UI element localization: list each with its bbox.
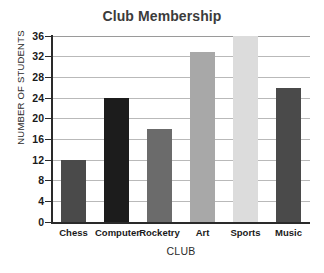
y-tick-label: 8 [4,175,44,186]
y-tick-label: 28 [4,72,44,83]
x-axis-label: CLUB [52,245,310,257]
bar [190,52,214,223]
y-axis-line [51,35,53,224]
x-tick-label: Sports [224,227,267,238]
y-tick-mark [45,201,52,202]
y-tick-label: 32 [4,51,44,62]
plot-area [52,36,310,222]
y-tick-label: 20 [4,113,44,124]
bar [276,88,300,222]
gridline [52,160,310,161]
y-tick-mark [45,118,52,119]
y-tick-mark [45,56,52,57]
y-tick-mark [45,222,52,223]
y-axis-tick-labels: 04812162024283236 [0,0,44,273]
bar-chart: Club Membership NUMBER OF STUDENTS 04812… [0,0,324,273]
x-tick-label: Rocketry [138,227,181,238]
x-tick-label: Computer [95,227,138,238]
y-tick-mark [45,160,52,161]
gridline [52,118,310,119]
gridline [52,180,310,181]
y-tick-label: 16 [4,134,44,145]
y-tick-mark [45,180,52,181]
y-tick-mark [45,139,52,140]
x-axis-tick-labels: ChessComputerRocketryArtSportsMusic [52,227,310,243]
y-tick-mark [45,36,52,37]
gridline [52,98,310,99]
y-tick-mark [45,98,52,99]
gridline [52,201,310,202]
gridline [52,139,310,140]
bar [233,36,257,222]
bar [104,98,128,222]
y-tick-label: 12 [4,155,44,166]
y-tick-label: 4 [4,196,44,207]
bar [147,129,171,222]
y-tick-mark [45,77,52,78]
bar [61,160,85,222]
y-tick-label: 24 [4,93,44,104]
x-tick-label: Art [181,227,224,238]
gridline [52,36,310,37]
chart-title: Club Membership [0,8,324,24]
x-axis-line [51,222,310,224]
gridline [52,77,310,78]
x-tick-label: Music [267,227,310,238]
y-tick-label: 36 [4,31,44,42]
y-tick-label: 0 [4,217,44,228]
x-tick-label: Chess [52,227,95,238]
gridline [52,56,310,57]
